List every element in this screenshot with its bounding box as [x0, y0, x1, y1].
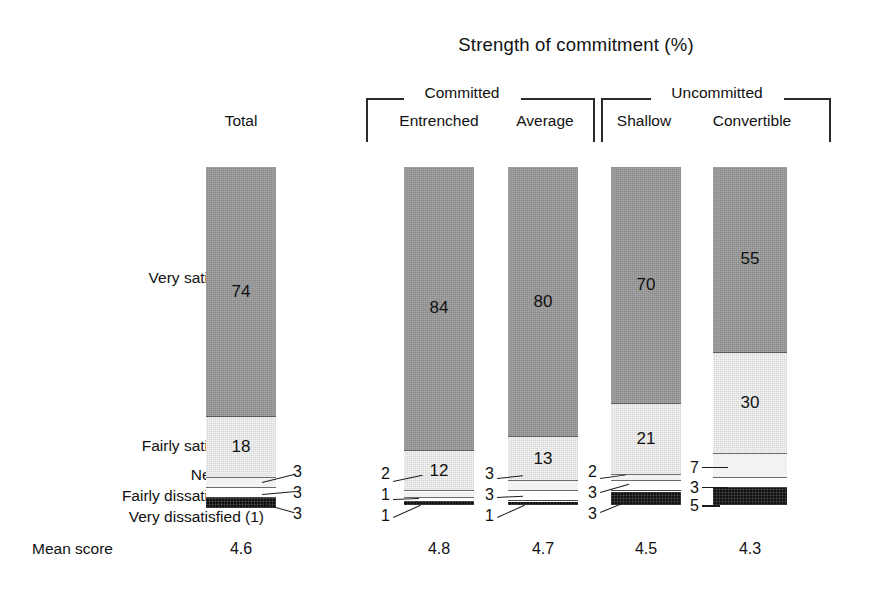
leader-average-very-dissatisfied — [497, 505, 525, 518]
bar-shallow[interactable]: 70 21 — [611, 167, 681, 505]
callout-average-very-dissatisfied: 1 — [480, 507, 494, 525]
callout-shallow-neither: 2 — [583, 463, 597, 481]
mean-score-label: Mean score — [32, 540, 113, 558]
segment-very-satisfied[interactable]: 74 — [206, 167, 276, 417]
group-label-uncommitted: Uncommitted — [652, 84, 782, 102]
segment-value-fairly-satisfied: 30 — [713, 393, 787, 413]
callout-average-neither: 3 — [480, 465, 494, 483]
segment-value-very-satisfied: 70 — [611, 275, 681, 295]
callout-shallow-very-dissatisfied: 3 — [583, 505, 597, 523]
segment-fairly-satisfied[interactable]: 12 — [404, 451, 474, 492]
segment-fairly-satisfied[interactable]: 18 — [206, 417, 276, 478]
callout-total-very-dissatisfied: 3 — [293, 505, 302, 523]
callout-entrenched-neither: 2 — [376, 465, 390, 483]
segment-very-satisfied[interactable]: 84 — [404, 167, 474, 451]
segment-neither[interactable] — [508, 481, 578, 491]
callout-shallow-fairly-dissatisfied: 3 — [583, 484, 597, 502]
bar-total[interactable]: 74 18 — [206, 167, 276, 505]
segment-value-very-satisfied: 80 — [508, 292, 578, 312]
callout-entrenched-very-dissatisfied: 1 — [376, 507, 390, 525]
callout-total-fairly-dissatisfied: 3 — [293, 484, 302, 502]
mean-score-convertible: 4.3 — [690, 540, 810, 558]
segment-very-satisfied[interactable]: 70 — [611, 167, 681, 404]
segment-very-dissatisfied[interactable] — [713, 488, 787, 505]
leader-convertible-neither — [702, 467, 728, 468]
leader-convertible-very-dissatisfied — [702, 505, 720, 507]
column-header-entrenched: Entrenched — [375, 112, 503, 130]
column-header-convertible: Convertible — [688, 112, 816, 130]
row-label-very-dissatisfied: Very dissatisfied (1) — [129, 508, 264, 526]
bar-average[interactable]: 80 13 — [508, 167, 578, 505]
bracket-committed-left-line — [366, 98, 404, 100]
callout-convertible-neither: 7 — [685, 459, 699, 477]
segment-value-fairly-satisfied: 18 — [206, 437, 276, 457]
mean-score-shallow: 4.5 — [586, 540, 706, 558]
bracket-committed-left-tick — [366, 98, 368, 142]
segment-very-satisfied[interactable]: 55 — [713, 167, 787, 353]
bracket-uncommitted-left-line — [601, 98, 651, 100]
callout-entrenched-fairly-dissatisfied: 1 — [376, 486, 390, 504]
segment-neither[interactable] — [206, 478, 276, 488]
bar-convertible[interactable]: 55 30 — [713, 167, 787, 505]
column-header-shallow: Shallow — [592, 112, 696, 130]
segment-value-very-satisfied: 84 — [404, 298, 474, 318]
segment-value-fairly-satisfied: 13 — [508, 449, 578, 469]
mean-score-average: 4.7 — [483, 540, 603, 558]
callout-convertible-very-dissatisfied: 5 — [685, 497, 699, 515]
mean-score-total: 4.6 — [181, 540, 301, 558]
column-header-average: Average — [490, 112, 600, 130]
segment-value-fairly-satisfied: 21 — [611, 429, 681, 449]
leader-convertible-fairly-dissatisfied — [702, 487, 728, 488]
callout-average-fairly-dissatisfied: 3 — [480, 486, 494, 504]
bracket-uncommitted-right-tick — [829, 98, 831, 142]
group-label-committed: Committed — [406, 84, 518, 102]
bracket-committed-right-line — [521, 98, 594, 100]
mean-score-entrenched: 4.8 — [379, 540, 499, 558]
bar-entrenched[interactable]: 84 12 — [404, 167, 474, 505]
segment-fairly-satisfied[interactable]: 21 — [611, 404, 681, 475]
callout-total-neither: 3 — [293, 463, 302, 481]
segment-very-dissatisfied[interactable] — [404, 502, 474, 505]
segment-value-very-satisfied: 55 — [713, 249, 787, 269]
segment-value-very-satisfied: 74 — [206, 282, 276, 302]
column-header-total: Total — [181, 112, 301, 130]
bracket-uncommitted-right-line — [784, 98, 830, 100]
page-title: Strength of commitment (%) — [281, 34, 871, 56]
segment-fairly-satisfied[interactable]: 30 — [713, 353, 787, 454]
callout-convertible-fairly-dissatisfied: 3 — [685, 479, 699, 497]
segment-value-fairly-satisfied: 12 — [404, 461, 474, 481]
segment-very-satisfied[interactable]: 80 — [508, 167, 578, 437]
leader-entrenched-very-dissatisfied — [393, 505, 421, 518]
segment-very-dissatisfied[interactable] — [508, 502, 578, 505]
